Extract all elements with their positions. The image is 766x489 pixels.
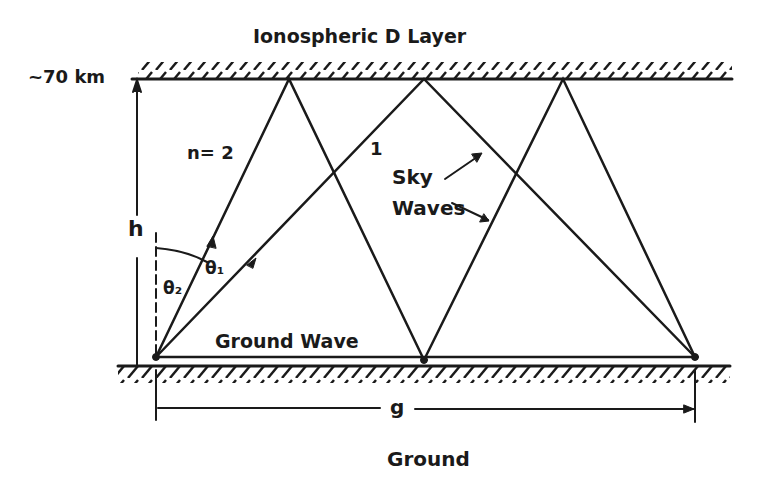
mode-1-label: 1 [370,138,383,159]
height-symbol-label: h [128,216,144,241]
mode-2-label: n= 2 [187,142,234,163]
diagram-title: Ionospheric D Layer [253,25,466,47]
mode-2-direction-arrow [207,236,216,248]
sky-waves-label-line-1: Sky [392,165,433,189]
ground-boundary [118,366,730,383]
reflection-point-ground [421,357,428,364]
ground-label: Ground [387,447,470,471]
sky-waves-label-line-2: Waves [392,196,465,220]
distance-label: g [390,395,404,419]
transmitter-point [153,354,160,361]
ground-wave-label: Ground Wave [215,330,359,352]
layer-height-label: ~70 km [28,66,105,87]
angle-arc [156,248,207,262]
theta-1-label: θ₁ [205,258,224,278]
receiver-point [692,354,699,361]
sky-wave-propagation-diagram [0,0,766,489]
theta-2-label: θ₂ [163,278,182,298]
ionosphere-boundary [132,62,732,79]
